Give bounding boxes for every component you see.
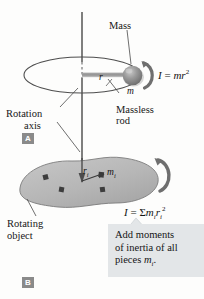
rotating-object-label-line2: object [7, 230, 33, 242]
moment-of-inertia-figure: Mass r m I = mr2 Massless rod Rotation a… [0, 0, 204, 299]
panel-a-badge: A [22, 133, 34, 144]
rotating-object-blob [20, 157, 158, 207]
equation-panel-b: I = Σmiri2 [124, 205, 165, 221]
massless-rod-shape [82, 73, 128, 77]
radius-symbol-a: r [99, 72, 103, 82]
equation-panel-a: I = mr2 [158, 68, 189, 81]
callout-line-2: of inertia of all [115, 242, 198, 255]
ri-symbol-sub: i [87, 171, 89, 178]
callout-line-3-pre: pieces [115, 254, 144, 265]
equation-b-exponent: 2 [162, 205, 166, 213]
rotation-axis-leader-line-a [60, 88, 78, 107]
callout-box: Add moments of inertia of all pieces mi. [108, 224, 204, 277]
equation-b-equals: = [128, 206, 140, 218]
mass-symbol-a: m [127, 86, 134, 96]
equation-a-exponent: 2 [186, 68, 190, 76]
equation-a-rhs: mr [173, 69, 185, 81]
sphere-highlight [126, 69, 133, 74]
massless-rod-label-line2: rod [116, 115, 130, 127]
rotation-axis-leader-line-b [57, 122, 80, 152]
rotating-object-label-line1: Rotating [7, 218, 43, 230]
mass-leader-line [127, 30, 131, 64]
mi-symbol: mi [107, 167, 116, 179]
mi-symbol-sub: i [114, 172, 116, 179]
ri-symbol: ri [83, 166, 89, 178]
callout-line-3: pieces mi. [115, 254, 198, 271]
point-mass-sphere [123, 66, 143, 86]
equation-b-radius-sub: i [160, 213, 162, 221]
mass-label: Mass [109, 20, 131, 32]
equation-b-mass: m [146, 206, 154, 218]
rotation-axis-label-line2: axis [24, 120, 41, 132]
equation-a-equals: = [162, 69, 174, 81]
panel-b-badge: B [22, 277, 34, 288]
massless-rod-label-line1: Massless [116, 104, 154, 116]
callout-line-1: Add moments [115, 229, 198, 242]
callout-line-3-post: . [153, 254, 156, 265]
mi-symbol-base: m [107, 167, 114, 177]
rotation-axis-label-line1: Rotation [6, 108, 42, 120]
